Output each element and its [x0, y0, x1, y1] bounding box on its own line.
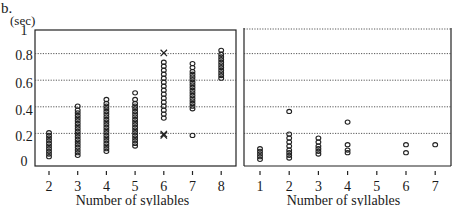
x-tick-label: 7	[189, 179, 196, 194]
x-tick-label: 6	[403, 179, 410, 194]
x-axis-label: Number of syllables	[76, 193, 190, 206]
x-tick-label: 4	[103, 179, 110, 194]
right-scatter-panel: 1234567Number of syllables	[244, 28, 451, 206]
figure-b: b. (sec) 00.20.40.60.812345678Number of …	[0, 0, 453, 206]
data-point-circle	[287, 109, 292, 113]
data-point-cross	[161, 132, 167, 138]
y-tick-label: 0.4	[15, 103, 33, 118]
x-tick-label: 4	[344, 179, 351, 194]
data-point-circle	[190, 133, 195, 137]
left-scatter-panel: 00.20.40.60.812345678Number of syllables	[15, 23, 236, 206]
y-tick-label: 1	[21, 23, 28, 38]
y-tick-label: 0.6	[15, 76, 33, 91]
y-tick-label: 0.2	[15, 129, 33, 144]
data-point-circle	[345, 120, 350, 124]
data-point-circle	[345, 148, 350, 152]
x-tick-label: 8	[218, 179, 225, 194]
x-tick-label: 6	[160, 179, 167, 194]
x-tick-label: 3	[74, 179, 81, 194]
data-point-cross	[161, 50, 167, 56]
data-point-circle	[433, 143, 438, 147]
data-point-circle	[345, 143, 350, 147]
y-tick-label: 0.8	[15, 48, 33, 63]
x-tick-label: 2	[286, 179, 293, 194]
x-tick-label: 5	[373, 179, 380, 194]
data-point-circle	[404, 143, 409, 147]
x-tick-label: 7	[432, 179, 439, 194]
x-tick-label: 2	[46, 179, 53, 194]
x-tick-label: 5	[132, 179, 139, 194]
data-point-circle	[258, 147, 263, 151]
y-tick-label: 0	[21, 154, 28, 169]
x-axis-label: Number of syllables	[287, 193, 401, 206]
data-point-circle	[47, 131, 52, 135]
data-point-cross	[161, 131, 167, 137]
data-point-circle	[133, 91, 138, 95]
data-point-circle	[404, 151, 409, 155]
x-tick-label: 3	[315, 179, 322, 194]
x-tick-label: 1	[257, 179, 264, 194]
